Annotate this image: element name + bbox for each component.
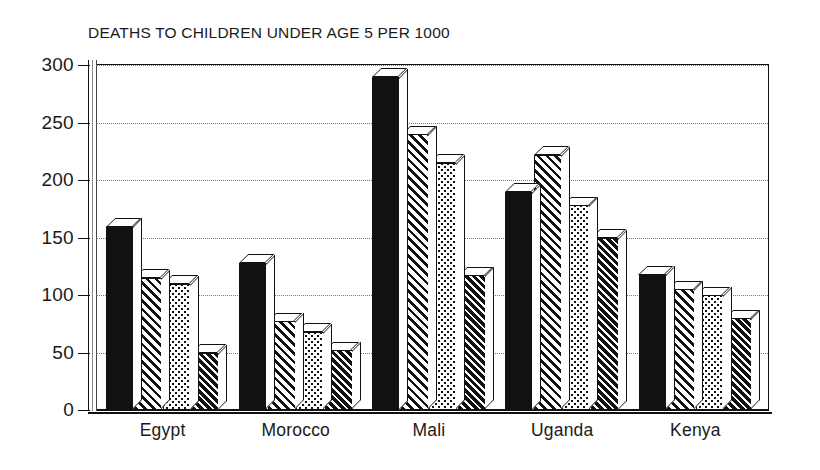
chart-root: DEATHS TO CHILDREN UNDER AGE 5 PER 1000 … — [0, 0, 820, 470]
y-axis-label-300: 300 — [22, 54, 74, 76]
x-axis-label-morocco: Morocco — [262, 420, 331, 441]
chart-title: DEATHS TO CHILDREN UNDER AGE 5 PER 1000 — [88, 24, 450, 42]
bar-egypt-series-1 — [106, 226, 134, 410]
bar-side-face — [618, 229, 627, 409]
bar-kenya-series-1 — [639, 274, 667, 410]
bar-side-face — [161, 269, 170, 409]
bar-side-face — [133, 218, 142, 409]
bar-side-face — [266, 254, 275, 409]
y-axis-label-100: 100 — [22, 284, 74, 306]
y-tick-300 — [78, 65, 90, 66]
gridline-250 — [96, 123, 768, 124]
bar-side-face — [694, 281, 703, 409]
bar-mali-series-1 — [372, 77, 400, 411]
bar-side-face — [190, 275, 199, 409]
y-axis-label-150: 150 — [22, 227, 74, 249]
bar-morocco-series-1 — [239, 263, 267, 410]
bar-side-face — [666, 266, 675, 409]
gridline-300 — [96, 65, 768, 66]
y-axis-label-200: 200 — [22, 169, 74, 191]
bar-side-face — [323, 323, 332, 409]
y-tick-50 — [78, 353, 90, 354]
bar-side-face — [428, 126, 437, 409]
bar-side-face — [218, 344, 227, 409]
bar-side-face — [352, 342, 361, 409]
bar-side-face — [561, 146, 570, 409]
y-tick-0 — [78, 410, 90, 411]
bar-uganda-series-1 — [505, 192, 533, 411]
y-axis-label-250: 250 — [22, 112, 74, 134]
x-axis-label-kenya: Kenya — [670, 420, 721, 441]
x-axis-label-egypt: Egypt — [140, 420, 186, 441]
y-axis-label-0: 0 — [22, 399, 74, 421]
bar-side-face — [456, 154, 465, 409]
bar-side-face — [485, 267, 494, 409]
y-axis-label-50: 50 — [22, 342, 74, 364]
bar-side-face — [751, 310, 760, 409]
x-axis-label-uganda: Uganda — [531, 420, 594, 441]
y-axis-wall — [88, 60, 97, 411]
y-tick-100 — [78, 295, 90, 296]
bar-side-face — [295, 313, 304, 409]
y-tick-200 — [78, 180, 90, 181]
y-tick-250 — [78, 123, 90, 124]
bar-side-face — [532, 183, 541, 409]
x-axis-label-mali: Mali — [413, 420, 446, 441]
bar-side-face — [589, 197, 598, 409]
bar-side-face — [399, 68, 408, 409]
bar-side-face — [723, 287, 732, 409]
y-tick-150 — [78, 238, 90, 239]
